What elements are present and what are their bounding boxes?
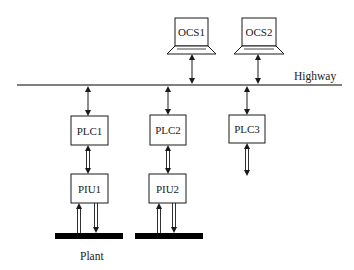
workstation-ocs1: OCS1: [167, 18, 216, 54]
workstation-label: OCS1: [178, 26, 205, 38]
plant-label: Plant: [80, 250, 104, 262]
plant: Plant: [55, 233, 203, 262]
laptop-base: [234, 46, 284, 54]
piu-label: PIU2: [156, 183, 179, 195]
operator-workstations: OCS1 OCS2: [167, 18, 284, 54]
process-interface-units: PIU1 PIU2: [71, 174, 186, 203]
plc-box-plc2: PLC2: [150, 115, 186, 145]
plant-bar: [135, 233, 203, 239]
control-system-diagram: Highway OCS1 OCS2 PLC1 PLC2 PLC3 PIU1: [0, 0, 354, 270]
piu-box-piu1: PIU1: [71, 174, 108, 203]
plc-controllers: PLC1 PLC2 PLC3: [71, 115, 265, 145]
plc-box-plc1: PLC1: [71, 116, 108, 145]
plc-label: PLC1: [77, 125, 103, 137]
plc-box-plc3: PLC3: [229, 115, 265, 143]
highway-label: Highway: [294, 70, 336, 83]
piu-label: PIU1: [78, 183, 101, 195]
workstation-label: OCS2: [246, 26, 273, 38]
highway-bus: Highway: [17, 70, 342, 85]
plant-bar: [55, 233, 123, 239]
workstation-ocs2: OCS2: [234, 18, 284, 54]
plc-label: PLC2: [155, 124, 181, 136]
plc-label: PLC3: [234, 123, 260, 135]
piu-box-piu2: PIU2: [149, 174, 186, 203]
laptop-base: [167, 46, 216, 54]
